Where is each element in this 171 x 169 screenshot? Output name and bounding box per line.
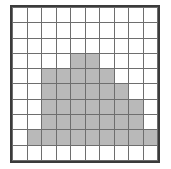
grid-cell-shaded[interactable] [85, 115, 100, 130]
grid-cell-empty[interactable] [27, 145, 42, 160]
grid-cell-empty[interactable] [143, 99, 158, 114]
grid-cell-empty[interactable] [143, 115, 158, 130]
grid-cell-empty[interactable] [129, 38, 144, 53]
grid-cell-empty[interactable] [27, 99, 42, 114]
grid-cell-shaded[interactable] [100, 130, 115, 145]
grid-cell-shaded[interactable] [114, 115, 129, 130]
grid-cell-empty[interactable] [114, 69, 129, 84]
grid-cell-shaded[interactable] [100, 84, 115, 99]
grid-cell-empty[interactable] [100, 145, 115, 160]
grid-cell-empty[interactable] [85, 23, 100, 38]
grid-cell-empty[interactable] [143, 145, 158, 160]
grid-cell-empty[interactable] [13, 115, 28, 130]
grid-cell-empty[interactable] [13, 69, 28, 84]
grid-cell-empty[interactable] [71, 8, 86, 23]
grid-cell-empty[interactable] [71, 23, 86, 38]
grid-cell-shaded[interactable] [42, 130, 57, 145]
grid-cell-shaded[interactable] [71, 130, 86, 145]
grid-cell-shaded[interactable] [56, 84, 71, 99]
grid-cell-shaded[interactable] [129, 130, 144, 145]
grid-cell-empty[interactable] [114, 23, 129, 38]
grid-cell-empty[interactable] [13, 84, 28, 99]
grid-cell-shaded[interactable] [42, 69, 57, 84]
grid-cell-empty[interactable] [129, 8, 144, 23]
grid-cell-shaded[interactable] [56, 130, 71, 145]
grid-cell-empty[interactable] [114, 38, 129, 53]
grid-cell-empty[interactable] [56, 8, 71, 23]
grid-cell-shaded[interactable] [129, 99, 144, 114]
grid-cell-shaded[interactable] [129, 115, 144, 130]
grid-cell-empty[interactable] [13, 130, 28, 145]
grid-cell-empty[interactable] [85, 38, 100, 53]
grid-cell-shaded[interactable] [56, 99, 71, 114]
grid-cell-shaded[interactable] [71, 84, 86, 99]
grid-cell-empty[interactable] [143, 8, 158, 23]
grid-cell-empty[interactable] [27, 69, 42, 84]
grid-cell-empty[interactable] [129, 23, 144, 38]
grid-cell-shaded[interactable] [100, 99, 115, 114]
grid-cell-shaded[interactable] [85, 53, 100, 68]
grid-cell-empty[interactable] [71, 145, 86, 160]
grid-cell-shaded[interactable] [42, 115, 57, 130]
grid-cell-shaded[interactable] [27, 130, 42, 145]
grid-cell-empty[interactable] [42, 23, 57, 38]
grid-cell-shaded[interactable] [56, 69, 71, 84]
grid-cell-empty[interactable] [13, 145, 28, 160]
grid-cell-empty[interactable] [27, 53, 42, 68]
grid-cell-shaded[interactable] [42, 99, 57, 114]
grid-cell-empty[interactable] [42, 145, 57, 160]
grid-cell-shaded[interactable] [71, 69, 86, 84]
grid-cell-shaded[interactable] [85, 99, 100, 114]
grid-cell-empty[interactable] [114, 8, 129, 23]
grid-cell-shaded[interactable] [100, 115, 115, 130]
grid-cell-empty[interactable] [56, 145, 71, 160]
grid-cell-empty[interactable] [27, 115, 42, 130]
grid-cell-empty[interactable] [129, 53, 144, 68]
grid-cell-empty[interactable] [56, 23, 71, 38]
grid-cell-empty[interactable] [71, 38, 86, 53]
grid-cell-empty[interactable] [13, 23, 28, 38]
grid-cell-empty[interactable] [129, 145, 144, 160]
grid-cell-empty[interactable] [42, 38, 57, 53]
grid-cell-empty[interactable] [13, 8, 28, 23]
grid-cell-shaded[interactable] [85, 69, 100, 84]
grid-cell-empty[interactable] [56, 53, 71, 68]
grid-cell-empty[interactable] [143, 38, 158, 53]
grid-cell-empty[interactable] [100, 38, 115, 53]
grid-cell-empty[interactable] [56, 38, 71, 53]
grid-cell-shaded[interactable] [85, 130, 100, 145]
grid-cell-empty[interactable] [143, 69, 158, 84]
grid-cell-empty[interactable] [85, 145, 100, 160]
grid-cell-empty[interactable] [85, 8, 100, 23]
grid-cell-empty[interactable] [42, 53, 57, 68]
grid-cell-empty[interactable] [143, 53, 158, 68]
grid-cell-empty[interactable] [143, 23, 158, 38]
grid-cell-empty[interactable] [13, 53, 28, 68]
grid-cell-shaded[interactable] [100, 69, 115, 84]
grid-cell-empty[interactable] [13, 99, 28, 114]
grid-cell-empty[interactable] [100, 23, 115, 38]
grid-cell-empty[interactable] [27, 38, 42, 53]
grid-cell-shaded[interactable] [114, 130, 129, 145]
grid-cell-empty[interactable] [143, 84, 158, 99]
grid-cell-shaded[interactable] [143, 130, 158, 145]
grid-cell-shaded[interactable] [42, 84, 57, 99]
grid-cell-empty[interactable] [27, 8, 42, 23]
grid-cell-shaded[interactable] [114, 84, 129, 99]
grid-cell-empty[interactable] [114, 145, 129, 160]
grid-cell-shaded[interactable] [71, 99, 86, 114]
grid-cell-empty[interactable] [129, 69, 144, 84]
grid-cell-empty[interactable] [114, 53, 129, 68]
grid-cell-shaded[interactable] [71, 53, 86, 68]
grid-cell-empty[interactable] [42, 8, 57, 23]
grid-cell-shaded[interactable] [71, 115, 86, 130]
grid-cell-empty[interactable] [27, 84, 42, 99]
grid-cell-empty[interactable] [27, 23, 42, 38]
grid-cell-empty[interactable] [129, 84, 144, 99]
grid-cell-shaded[interactable] [85, 84, 100, 99]
grid-cell-empty[interactable] [13, 38, 28, 53]
grid-cell-empty[interactable] [100, 53, 115, 68]
grid-cell-shaded[interactable] [56, 115, 71, 130]
grid-cell-shaded[interactable] [114, 99, 129, 114]
grid-cell-empty[interactable] [100, 8, 115, 23]
